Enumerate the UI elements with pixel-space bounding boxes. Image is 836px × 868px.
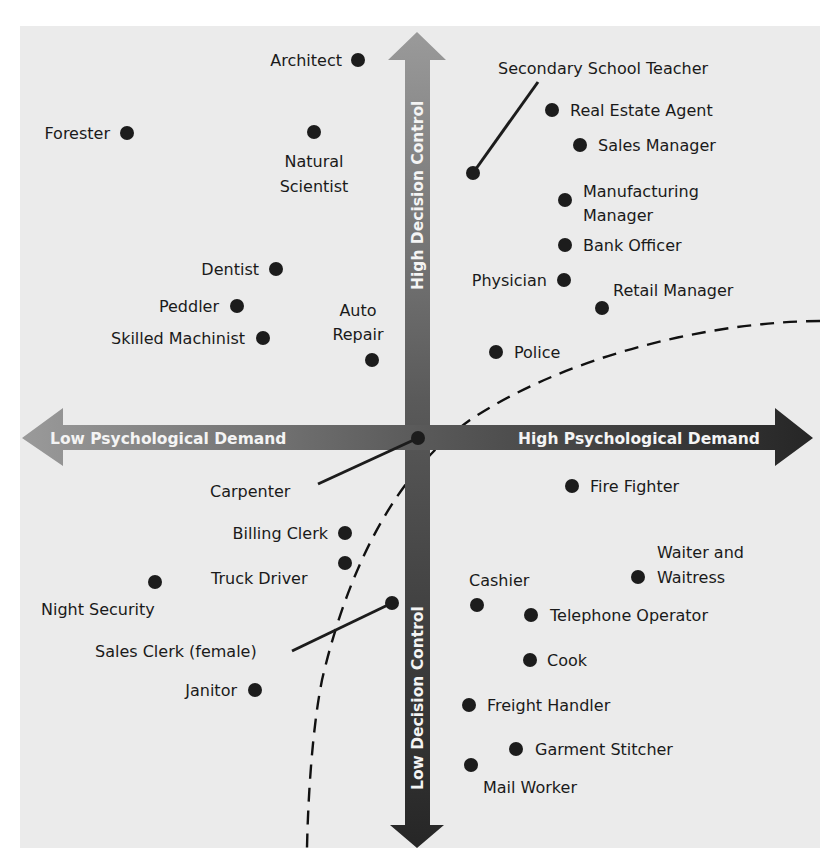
dot-mail-worker <box>464 758 478 772</box>
dot-architect <box>351 53 365 67</box>
label-natural-scientist-line2: Scientist <box>280 177 349 196</box>
dot-peddler <box>230 299 244 313</box>
job-strain-diagram: High Decision Control Low Decision Contr… <box>0 0 836 868</box>
axis-label-low-psychological-demand: Low Psychological Demand <box>50 430 286 448</box>
dot-skilled-machinist <box>256 331 270 345</box>
dot-cook <box>523 653 537 667</box>
label-bank-officer: Bank Officer <box>583 236 682 255</box>
label-telephone-operator: Telephone Operator <box>549 606 708 625</box>
dot-physician <box>557 273 571 287</box>
label-dentist: Dentist <box>201 260 259 279</box>
dot-secondary-school-teacher <box>466 166 480 180</box>
label-manufacturing-manager-line2: Manager <box>583 206 654 225</box>
label-billing-clerk: Billing Clerk <box>233 524 329 543</box>
dot-cashier <box>470 598 484 612</box>
label-skilled-machinist: Skilled Machinist <box>111 329 245 348</box>
dot-garment-stitcher <box>509 742 523 756</box>
dot-telephone-operator <box>524 608 538 622</box>
dot-forester <box>120 126 134 140</box>
dot-carpenter <box>411 431 425 445</box>
dot-police <box>489 345 503 359</box>
label-sales-manager: Sales Manager <box>598 136 716 155</box>
dot-freight-handler <box>462 698 476 712</box>
label-garment-stitcher: Garment Stitcher <box>535 740 673 759</box>
dot-dentist <box>269 262 283 276</box>
axis-label-high-psychological-demand: High Psychological Demand <box>518 430 760 448</box>
label-auto-repair-line1: Auto <box>339 301 376 320</box>
label-real-estate-agent: Real Estate Agent <box>570 101 713 120</box>
label-sales-clerk: Sales Clerk (female) <box>95 642 257 661</box>
label-retail-manager: Retail Manager <box>613 281 734 300</box>
label-forester: Forester <box>44 124 110 143</box>
label-waiter-line1: Waiter and <box>657 543 744 562</box>
axis-label-low-decision-control: Low Decision Control <box>409 606 427 790</box>
label-secondary-school-teacher: Secondary School Teacher <box>498 59 709 78</box>
label-mail-worker: Mail Worker <box>483 778 577 797</box>
dot-waiter-waitress <box>631 570 645 584</box>
axis-label-high-decision-control: High Decision Control <box>409 101 427 290</box>
label-architect: Architect <box>270 51 342 70</box>
label-physician: Physician <box>472 271 547 290</box>
label-peddler: Peddler <box>159 297 220 316</box>
label-cashier: Cashier <box>469 571 530 590</box>
dot-fire-fighter <box>565 479 579 493</box>
label-cook: Cook <box>547 651 588 670</box>
dot-billing-clerk <box>338 526 352 540</box>
label-truck-driver: Truck Driver <box>210 569 308 588</box>
label-carpenter: Carpenter <box>210 482 291 501</box>
dot-night-security <box>148 575 162 589</box>
dot-natural-scientist <box>307 125 321 139</box>
label-manufacturing-manager-line1: Manufacturing <box>583 182 699 201</box>
dot-truck-driver <box>338 556 352 570</box>
dot-bank-officer <box>558 238 572 252</box>
label-waiter-line2: Waitress <box>657 568 725 587</box>
dot-manufacturing-manager <box>558 193 572 207</box>
dot-auto-repair <box>365 353 379 367</box>
dot-janitor <box>248 683 262 697</box>
label-police: Police <box>514 343 560 362</box>
dot-sales-clerk <box>385 596 399 610</box>
dot-real-estate-agent <box>545 103 559 117</box>
label-auto-repair-line2: Repair <box>332 325 384 344</box>
dot-retail-manager <box>595 301 609 315</box>
label-janitor: Janitor <box>184 681 237 700</box>
label-night-security: Night Security <box>41 600 155 619</box>
label-fire-fighter: Fire Fighter <box>590 477 680 496</box>
dot-sales-manager <box>573 138 587 152</box>
label-natural-scientist-line1: Natural <box>284 152 343 171</box>
label-freight-handler: Freight Handler <box>487 696 611 715</box>
